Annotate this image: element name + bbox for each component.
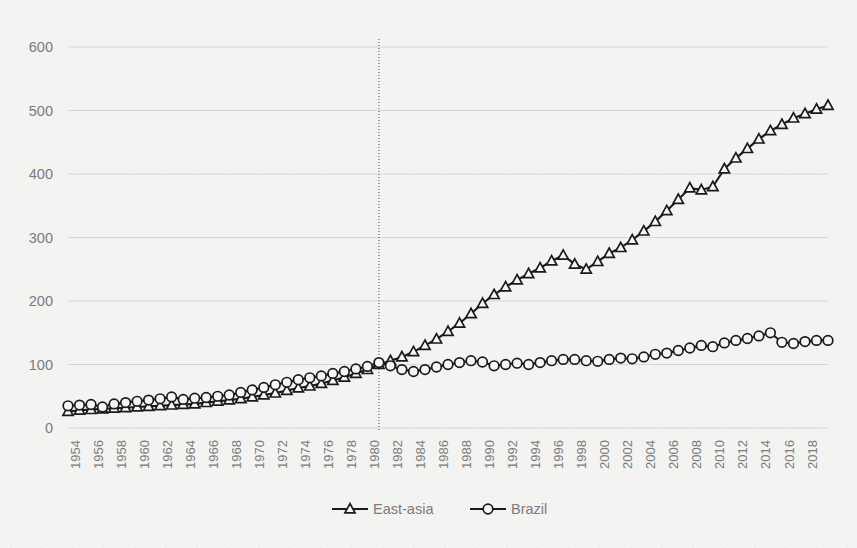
circle-marker (789, 339, 799, 349)
triangle-marker (420, 340, 430, 349)
y-axis-tick-label: 500 (29, 103, 53, 119)
x-axis-tick-label: 2014 (758, 440, 773, 469)
circle-marker (155, 394, 165, 404)
y-axis-tick-label: 100 (29, 357, 53, 373)
legend-item-brazil[interactable] (470, 504, 506, 514)
x-axis-tick-label: 1970 (252, 440, 267, 469)
x-axis-tick-label: 1984 (413, 440, 428, 469)
circle-marker (86, 400, 96, 410)
triangle-marker (558, 250, 568, 259)
x-axis-tick-label: 1996 (551, 440, 566, 469)
chart-container: 0100200300400500600 19541956195819601962… (0, 0, 857, 548)
circle-marker (98, 402, 108, 412)
x-axis-tick-label: 1968 (229, 440, 244, 469)
y-axis-labels-group: 0100200300400500600 (29, 39, 53, 436)
x-axis-tick-label: 2018 (805, 440, 820, 469)
triangle-marker (765, 125, 775, 134)
x-axis-tick-label: 1960 (137, 440, 152, 469)
triangle-marker (777, 119, 787, 128)
x-axis-tick-label: 2004 (643, 440, 658, 469)
circle-marker (616, 353, 626, 363)
triangle-marker (823, 100, 833, 109)
legend-item-east-asia[interactable] (332, 504, 368, 513)
circle-marker (271, 380, 281, 390)
x-axis-tick-label: 1998 (574, 440, 589, 469)
circle-marker (593, 357, 603, 367)
circle-marker (708, 342, 718, 352)
circle-marker (75, 400, 85, 410)
legend-circle-marker (483, 504, 493, 514)
circle-marker (581, 356, 591, 366)
circle-marker (178, 395, 188, 405)
series-brazil (63, 328, 833, 412)
x-axis-tick-label: 2012 (735, 440, 750, 469)
y-axis-tick-label: 300 (29, 230, 53, 246)
y-axis-tick-label: 600 (29, 39, 53, 55)
circle-marker (639, 352, 649, 362)
circle-marker (305, 373, 315, 383)
circle-marker (190, 393, 200, 403)
triangle-marker (685, 183, 695, 192)
x-axis-tick-label: 1958 (114, 440, 129, 469)
circle-marker (109, 399, 119, 409)
y-axis-tick-label: 400 (29, 166, 53, 182)
circle-marker (409, 367, 419, 377)
circle-marker (651, 350, 661, 360)
x-axis-tick-label: 1990 (482, 440, 497, 469)
x-axis-tick-label: 1956 (91, 440, 106, 469)
legend-label: Brazil (511, 501, 547, 517)
circle-marker (294, 375, 304, 385)
gridlines-group (68, 47, 828, 428)
circle-marker (121, 398, 131, 408)
x-axis-tick-label: 1974 (298, 440, 313, 469)
series-group (63, 100, 833, 415)
x-axis-tick-label: 1954 (68, 440, 83, 469)
circle-marker (351, 364, 361, 374)
line-chart: 0100200300400500600 19541956195819601962… (0, 0, 857, 548)
x-axis-labels-group: 1954195619581960196219641966196819701972… (68, 440, 820, 469)
y-axis-tick-label: 200 (29, 293, 53, 309)
x-axis-tick-label: 2008 (689, 440, 704, 469)
circle-marker (766, 328, 776, 338)
circle-marker (743, 334, 753, 344)
circle-marker (144, 395, 154, 405)
circle-marker (501, 360, 511, 370)
circle-marker (558, 355, 568, 365)
x-axis-tick-label: 2016 (782, 440, 797, 469)
circle-marker (489, 361, 499, 371)
x-axis-tick-label: 1962 (160, 440, 175, 469)
circle-marker (374, 358, 384, 368)
legend-label: East-asia (373, 501, 434, 517)
triangle-marker (408, 346, 418, 355)
triangle-marker (616, 242, 626, 251)
circle-marker (236, 388, 246, 398)
x-axis-tick-label: 1972 (275, 440, 290, 469)
x-axis-tick-label: 1988 (459, 440, 474, 469)
circle-marker (547, 356, 557, 366)
circle-marker (328, 369, 338, 379)
circle-marker (282, 378, 292, 388)
triangle-marker (443, 326, 453, 335)
triangle-marker (754, 134, 764, 143)
circle-marker (800, 337, 810, 347)
circle-marker (167, 392, 177, 402)
circle-marker (720, 338, 730, 348)
circle-marker (420, 365, 430, 375)
circle-marker (512, 358, 522, 368)
x-axis-tick-label: 1986 (436, 440, 451, 469)
y-axis-tick-label: 0 (45, 420, 53, 436)
x-axis-tick-label: 1992 (505, 440, 520, 469)
triangle-marker (512, 275, 522, 284)
chart-legend: East-asiaBrazil (332, 501, 547, 517)
x-axis-tick-label: 2000 (597, 440, 612, 469)
circle-marker (63, 401, 73, 411)
circle-marker (386, 361, 396, 371)
circle-marker (604, 355, 614, 365)
circle-marker (443, 360, 453, 370)
circle-marker (535, 358, 545, 368)
circle-marker (432, 362, 442, 372)
circle-marker (340, 367, 350, 377)
x-axis-tick-label: 2010 (712, 440, 727, 469)
circle-marker (259, 383, 269, 393)
triangle-marker (489, 289, 499, 298)
